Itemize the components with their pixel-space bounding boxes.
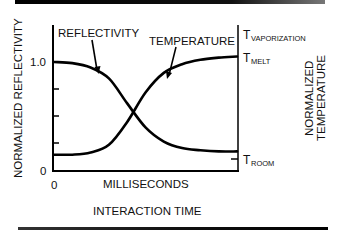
reflectivity-curve — [54, 62, 237, 151]
figure: REFLECTIVITY TEMPERATURE 1.0 0 0 T VAPOR… — [0, 0, 341, 233]
y-left-axis-title: NORMALIZED REFLECTIVITY — [12, 18, 24, 178]
svg-text:T: T — [243, 153, 251, 167]
y-right-axis-title-line1: NORMALIZED — [303, 61, 315, 136]
svg-text:T: T — [243, 51, 251, 65]
chart-svg: REFLECTIVITY TEMPERATURE 1.0 0 0 T VAPOR… — [0, 0, 341, 233]
y-tick-label-1: 1.0 — [30, 56, 46, 68]
x-units-label: MILLISECONDS — [103, 178, 189, 190]
t-vaporization-label: T VAPORIZATION — [243, 28, 306, 43]
bottom-rule — [18, 227, 328, 230]
t-melt-label: T MELT — [243, 51, 271, 66]
x-axis-title: INTERACTION TIME — [93, 205, 202, 217]
top-rule — [15, 0, 325, 4]
temperature-arrow — [166, 47, 176, 79]
svg-text:VAPORIZATION: VAPORIZATION — [251, 34, 306, 43]
temperature-label: TEMPERATURE — [149, 35, 235, 47]
reflectivity-label: REFLECTIVITY — [58, 27, 139, 39]
x-tick-label-0: 0 — [51, 179, 57, 191]
y-right-axis-title-line2: TEMPERATURE — [315, 55, 327, 141]
svg-text:MELT: MELT — [251, 57, 271, 66]
y-tick-label-0: 0 — [40, 165, 46, 177]
t-room-label: T ROOM — [243, 153, 274, 168]
svg-text:ROOM: ROOM — [251, 159, 274, 168]
svg-text:T: T — [243, 28, 251, 42]
temperature-curve — [54, 57, 237, 155]
